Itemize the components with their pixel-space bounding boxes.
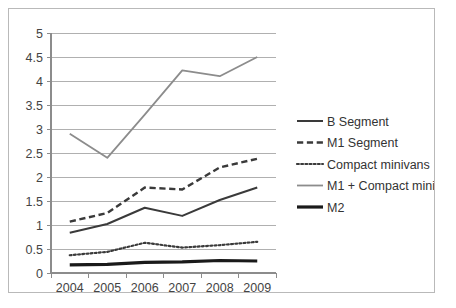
series-line-4: [70, 261, 258, 265]
x-axis-tick-label: 2004: [56, 281, 84, 292]
legend-label-2: Compact minivans: [327, 158, 430, 172]
x-axis-tick-label: 2007: [168, 281, 196, 292]
legend-label-3: M1 + Compact minivans: [327, 179, 434, 193]
y-axis-tick-label: 3: [36, 123, 43, 137]
y-axis-tick-label: 0: [36, 267, 43, 281]
y-axis-tick-label: 2: [36, 171, 43, 185]
series-line-3: [70, 57, 258, 158]
series-line-0: [70, 188, 258, 233]
y-axis-tick-label: 4: [36, 75, 43, 89]
x-axis-tick-label: 2009: [243, 281, 271, 292]
bottom-caption: [290, 296, 456, 308]
legend-label-4: M2: [327, 201, 344, 215]
y-axis-tick-label: 0.5: [26, 243, 43, 257]
x-axis-tick-label: 2008: [206, 281, 234, 292]
y-axis-tick-label: 5: [36, 27, 43, 41]
y-axis-tick-label: 3.5: [26, 99, 43, 113]
legend-label-0: B Segment: [327, 115, 389, 129]
y-axis-tick-label: 4.5: [26, 51, 43, 65]
chart-frame: 00.511.522.533.544.552004200520062007200…: [8, 8, 435, 293]
x-axis-tick-label: 2005: [93, 281, 121, 292]
x-axis-tick-label: 2006: [131, 281, 159, 292]
line-chart: 00.511.522.533.544.552004200520062007200…: [9, 9, 434, 292]
legend-label-1: M1 Segment: [327, 136, 398, 150]
y-axis-tick-label: 1: [36, 219, 43, 233]
y-axis-tick-label: 2.5: [26, 147, 43, 161]
y-axis-tick-label: 1.5: [26, 195, 43, 209]
